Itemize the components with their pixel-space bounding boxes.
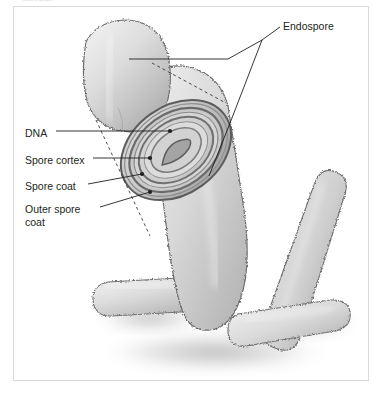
bacterial-cell-bottom-right (228, 300, 350, 346)
leader-dot-spore-cortex (148, 156, 152, 160)
label-endospore: Endospore (283, 20, 334, 33)
leader-dot-dna (168, 129, 172, 133)
leader-endospore-stub (262, 27, 280, 40)
label-outer-spore-coat: Outer spore coat (25, 203, 97, 229)
endospore-figure: Illustration (0, 0, 377, 410)
label-dna: DNA (25, 127, 47, 140)
leader-outer-spore-coat (100, 192, 150, 207)
label-spore-cortex: Spore cortex (25, 154, 85, 167)
leader-dot-spore-coat (140, 172, 144, 176)
leader-dot-outer-spore-coat (148, 190, 152, 194)
label-spore-coat: Spore coat (25, 180, 76, 193)
